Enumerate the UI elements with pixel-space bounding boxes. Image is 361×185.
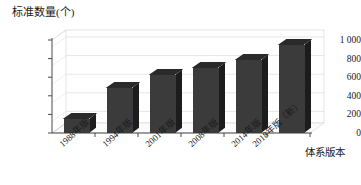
y-tick-label: 600 <box>315 72 361 82</box>
y-tick-label: 200 <box>315 109 361 119</box>
y-tick-label: 800 <box>315 54 361 64</box>
bar-side-face <box>262 55 268 132</box>
x-axis-title: 体系版本 <box>305 144 345 159</box>
y-tick-label: 1 000 <box>315 35 361 45</box>
bar-side-face <box>176 70 182 132</box>
y-axis-ticks <box>48 40 52 133</box>
plot-area: 1 000 800 600 400 200 0 <box>0 0 361 185</box>
y-tick-label: 0 <box>315 128 361 138</box>
bar-side-face <box>219 63 225 133</box>
bar-side-face <box>305 39 311 132</box>
y-tick-label: 400 <box>315 91 361 101</box>
bar-chart: 标准数量(个) <box>0 0 361 185</box>
